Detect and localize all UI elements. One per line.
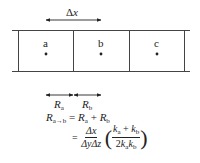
ra-symbol: R: [54, 98, 61, 110]
node-dot-c: [156, 53, 159, 56]
cell-label-a: a: [43, 38, 48, 49]
term1-symbol: R: [78, 111, 85, 123]
right-paren: ): [140, 125, 147, 150]
delta-x-label: Δx: [66, 7, 78, 18]
conductivity-denominator: 2kakb: [115, 138, 138, 151]
geometry-fraction: Δx ΔyΔz: [80, 126, 102, 149]
k-subscript: a: [118, 128, 121, 136]
lhs-subscript: a→b: [53, 117, 67, 125]
x-variable: x: [73, 6, 78, 18]
equals-sign-2: =: [72, 132, 78, 143]
node-dot-b: [100, 53, 103, 56]
plus-sign-2: +: [123, 123, 129, 134]
ra-subscript: a: [61, 104, 64, 112]
k-subscript: b: [136, 128, 140, 136]
cell-label-b: b: [98, 38, 104, 49]
equation-line-2: = Δx ΔyΔz ( ka + kb 2kakb ): [72, 124, 148, 151]
equals-sign: =: [69, 111, 75, 123]
geometry-denominator: ΔyΔz: [80, 138, 102, 149]
node-dot-a: [45, 53, 48, 56]
ra-label: Ra: [54, 99, 64, 112]
lhs-symbol: R: [46, 111, 53, 123]
cell-label-c: c: [154, 38, 159, 49]
rb-symbol: R: [82, 98, 89, 110]
conductivity-numerator: ka + kb: [112, 124, 140, 138]
geometry-numerator: Δx: [85, 126, 97, 138]
k-subscript: b: [133, 143, 137, 151]
conductivity-fraction: ka + kb 2kakb: [112, 124, 140, 151]
left-paren: (: [105, 125, 112, 150]
plus-sign: +: [91, 111, 97, 123]
